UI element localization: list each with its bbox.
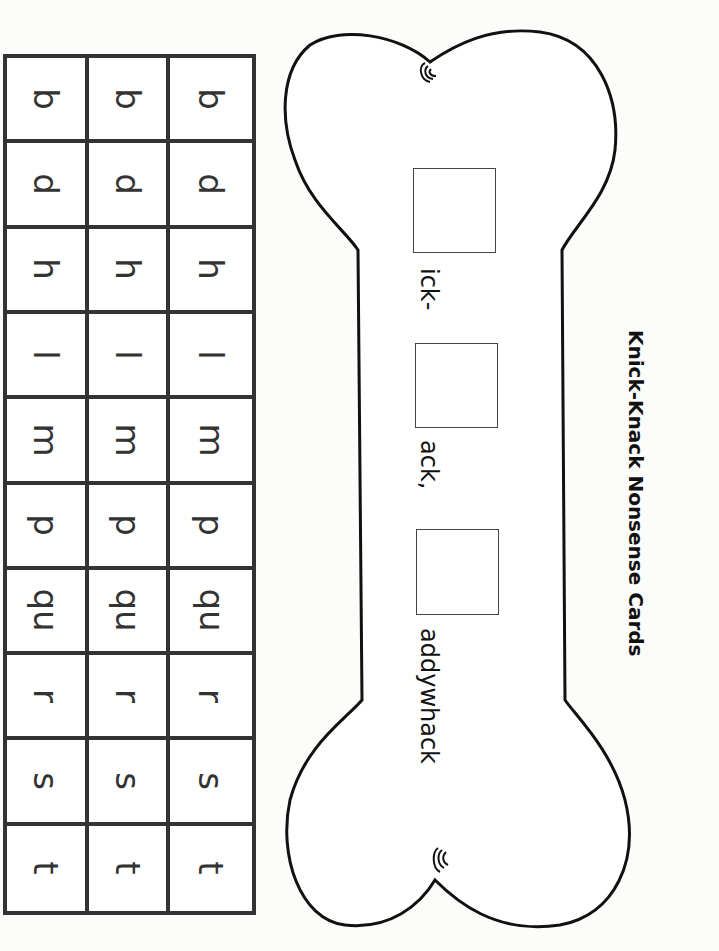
card-letter: d <box>194 173 228 195</box>
card-letter: t <box>110 862 144 875</box>
letter-card[interactable]: h <box>7 229 89 314</box>
letter-card[interactable]: m <box>89 399 171 484</box>
card-letter: l <box>194 350 228 359</box>
card-letter: d <box>29 173 63 195</box>
letter-card[interactable]: b <box>7 58 89 143</box>
card-letter: m <box>194 423 228 456</box>
letter-card[interactable]: s <box>89 740 171 825</box>
card-letter: h <box>29 258 63 280</box>
letter-card[interactable]: b <box>89 58 171 143</box>
card-letter: qu <box>110 589 144 632</box>
letter-card[interactable]: t <box>170 826 252 911</box>
letter-card[interactable]: b <box>170 58 252 143</box>
card-letter: r <box>194 689 228 703</box>
card-letter: s <box>110 772 144 790</box>
letter-card[interactable]: s <box>7 740 89 825</box>
card-letter: d <box>110 173 144 195</box>
letter-card[interactable]: qu <box>89 570 171 655</box>
card-letter: p <box>110 514 144 536</box>
card-letter: s <box>194 772 228 790</box>
card-letter: p <box>194 514 228 536</box>
card-letter: h <box>110 258 144 280</box>
card-letter: b <box>110 88 144 110</box>
card-letter: r <box>110 689 144 703</box>
letter-card[interactable]: h <box>89 229 171 314</box>
letter-card[interactable]: l <box>89 314 171 399</box>
blank-box-3[interactable] <box>416 529 499 615</box>
card-letter: l <box>110 350 144 359</box>
letter-card[interactable]: m <box>170 399 252 484</box>
card-letter: b <box>29 88 63 110</box>
card-letter: m <box>29 423 63 456</box>
card-letter: t <box>194 862 228 875</box>
letter-card[interactable]: r <box>7 655 89 740</box>
worksheet-page: Knick-Knack Nonsense Cards ick- ack, add… <box>0 0 719 951</box>
letter-card[interactable]: p <box>7 485 89 570</box>
letter-card[interactable]: d <box>7 143 89 228</box>
letter-card[interactable]: d <box>170 143 252 228</box>
phrase-segment-1: ick- <box>415 268 443 310</box>
card-letter: l <box>29 350 63 359</box>
letter-card-grid: b b b d d d h h h l l l m m m p p p qu q… <box>3 54 256 915</box>
phrase-segment-3: addywhack <box>415 628 443 764</box>
card-letter: r <box>29 689 63 703</box>
card-letter: m <box>110 423 144 456</box>
letter-card[interactable]: d <box>89 143 171 228</box>
blank-box-2[interactable] <box>415 343 498 428</box>
letter-card[interactable]: s <box>170 740 252 825</box>
letter-card[interactable]: h <box>170 229 252 314</box>
letter-card[interactable]: t <box>7 826 89 911</box>
letter-card[interactable]: l <box>170 314 252 399</box>
card-letter: h <box>194 258 228 280</box>
card-letter: p <box>29 514 63 536</box>
letter-card[interactable]: r <box>89 655 171 740</box>
worksheet-title: Knick-Knack Nonsense Cards <box>624 330 648 657</box>
blank-box-1[interactable] <box>413 168 496 253</box>
card-letter: t <box>29 862 63 875</box>
card-letter: s <box>29 772 63 790</box>
card-letter: qu <box>194 589 228 632</box>
letter-card[interactable]: p <box>89 485 171 570</box>
letter-card[interactable]: qu <box>170 570 252 655</box>
letter-card[interactable]: r <box>170 655 252 740</box>
letter-card[interactable]: p <box>170 485 252 570</box>
letter-card[interactable]: l <box>7 314 89 399</box>
letter-card[interactable]: qu <box>7 570 89 655</box>
card-letter: qu <box>29 589 63 632</box>
card-letter: b <box>194 88 228 110</box>
letter-card[interactable]: m <box>7 399 89 484</box>
letter-card[interactable]: t <box>89 826 171 911</box>
phrase-segment-2: ack, <box>415 440 443 489</box>
